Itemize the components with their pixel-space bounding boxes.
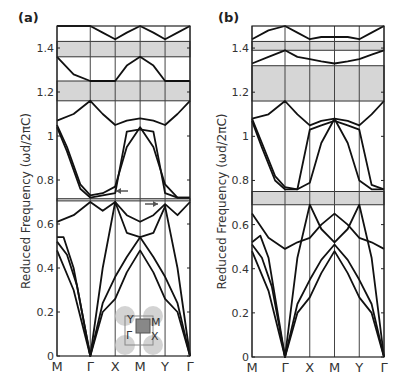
svg-text:Γ: Γ xyxy=(126,329,133,342)
band-line xyxy=(57,26,190,39)
band-line xyxy=(57,202,190,222)
x-tick-label: M xyxy=(135,359,146,374)
x-tick-label: Γ xyxy=(186,359,194,374)
band-line xyxy=(57,101,190,125)
x-tick-label: M xyxy=(51,359,62,374)
y-tick-label: 0.4 xyxy=(37,262,55,275)
y-tick-label: 0.8 xyxy=(232,174,250,187)
arrow-right-icon xyxy=(145,201,158,207)
band-line xyxy=(252,26,384,39)
x-tick-label: M xyxy=(329,360,340,375)
panel-label: (b) xyxy=(218,10,239,25)
arrow-left-icon xyxy=(116,188,128,194)
panel-a: YMΓX00.20.40.60.811.21.4MΓXMYΓReduced Fr… xyxy=(18,10,194,374)
band-line xyxy=(57,125,190,198)
panel-label: (a) xyxy=(18,10,39,25)
x-tick-label: Y xyxy=(354,360,363,375)
y-tick-label: 1.4 xyxy=(37,42,55,55)
x-tick-label: Y xyxy=(160,359,169,374)
y-tick-label: 1.4 xyxy=(232,42,250,55)
y-tick-label: 0.4 xyxy=(232,263,250,276)
y-tick-label: 0.2 xyxy=(37,306,55,319)
y-tick-label: 1.2 xyxy=(37,86,55,99)
y-tick-label: 0.8 xyxy=(37,174,55,187)
x-tick-label: Γ xyxy=(87,359,95,374)
x-tick-label: Γ xyxy=(380,360,388,375)
band-gap-region xyxy=(252,41,384,50)
band-line xyxy=(252,50,384,63)
y-tick-label: 1.2 xyxy=(232,86,250,99)
svg-text:X: X xyxy=(151,330,159,343)
band-gap-region xyxy=(57,199,190,201)
band-line xyxy=(57,127,190,197)
y-tick-label: 0.6 xyxy=(232,219,250,232)
brillouin-zone-inset: YMΓX xyxy=(115,306,163,355)
band-gap-region xyxy=(57,81,190,101)
y-tick-label: 1 xyxy=(47,130,54,143)
y-tick-label: 0.6 xyxy=(37,218,55,231)
x-tick-label: X xyxy=(305,360,314,375)
band-line xyxy=(57,57,190,81)
band-gap-region xyxy=(252,66,384,101)
svg-text:M: M xyxy=(151,316,161,329)
svg-text:Y: Y xyxy=(126,313,134,326)
x-tick-label: M xyxy=(246,360,257,375)
band-structure-figure: YMΓX00.20.40.60.811.21.4MΓXMYΓReduced Fr… xyxy=(0,0,404,392)
y-tick-label: 1 xyxy=(242,130,249,143)
y-axis-label: Reduced Frequency (ωd/2πC) xyxy=(19,113,33,289)
x-tick-label: X xyxy=(111,359,120,374)
band-gap-region xyxy=(57,41,190,56)
x-tick-label: Γ xyxy=(281,360,289,375)
panel-b: 00.20.40.60.811.21.4MΓXMYΓReduced Freque… xyxy=(215,10,388,375)
y-axis-label: Reduced Frequency (ωd/2πC) xyxy=(215,114,229,290)
band-line xyxy=(252,101,384,125)
y-tick-label: 0.2 xyxy=(232,307,250,320)
band-gap-region xyxy=(252,192,384,205)
band-line xyxy=(252,214,384,249)
